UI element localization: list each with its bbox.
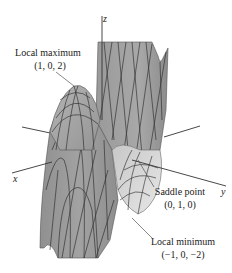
local-max-point: (1, 0, 2): [34, 60, 66, 72]
annotation-local-minimum: Local minimum (−1, 0, −2): [132, 218, 215, 261]
saddle-title: Saddle point: [155, 186, 205, 197]
x-axis-label: x: [12, 173, 18, 184]
saddle-point: (0, 1, 0): [164, 199, 196, 211]
surface-hump: [50, 85, 100, 150]
annotation-local-maximum: Local maximum (1, 0, 2): [15, 47, 81, 86]
surface-bowl: [112, 145, 162, 214]
local-max-leader: [56, 72, 74, 86]
local-min-point: (−1, 0, −2): [162, 249, 205, 261]
local-max-title: Local maximum: [15, 47, 81, 58]
y-axis-label: y: [220, 186, 226, 197]
local-min-title: Local minimum: [151, 236, 215, 247]
z-axis-label: z: [102, 13, 107, 24]
local-min-leader: [132, 218, 152, 238]
surface-plot: z: [0, 0, 232, 273]
y-axis-back: [164, 126, 200, 137]
